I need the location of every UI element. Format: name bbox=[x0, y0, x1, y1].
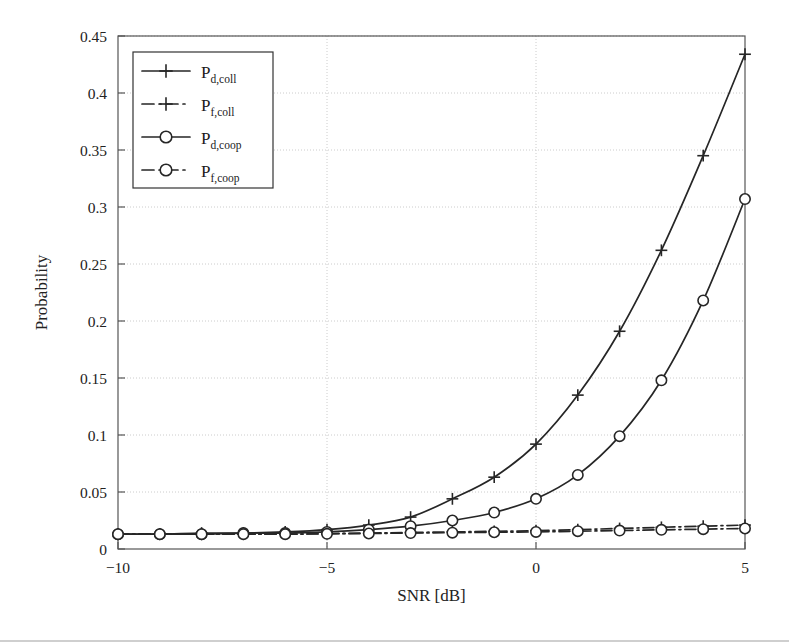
x-tick-label-3: 5 bbox=[741, 559, 749, 576]
x-axis-label: SNR [dB] bbox=[397, 586, 465, 605]
y-axis-label: Probability bbox=[32, 254, 51, 330]
series-p-f-coll bbox=[112, 519, 751, 540]
y-tick-label-5: 0.25 bbox=[80, 256, 107, 273]
y-tick-label-7: 0.35 bbox=[80, 142, 107, 159]
y-tick-label-9: 0.45 bbox=[80, 28, 107, 45]
x-tick-label-0: −10 bbox=[106, 559, 130, 576]
y-tick-label-3: 0.15 bbox=[80, 370, 107, 387]
figure-container: 00.050.10.150.20.250.30.350.40.45−10−505… bbox=[0, 0, 789, 642]
y-tick-label-2: 0.1 bbox=[88, 427, 107, 444]
probability-vs-snr-chart: 00.050.10.150.20.250.30.350.40.45−10−505… bbox=[0, 0, 789, 642]
y-tick-label-6: 0.3 bbox=[88, 199, 108, 216]
y-tick-label-0: 0 bbox=[99, 541, 107, 558]
y-tick-label-8: 0.4 bbox=[88, 85, 108, 102]
x-tick-label-2: 0 bbox=[532, 559, 540, 576]
y-tick-label-1: 0.05 bbox=[80, 484, 107, 501]
series-p-f-coop bbox=[113, 523, 750, 539]
x-tick-label-1: −5 bbox=[319, 559, 336, 576]
chart-legend: Pd,collPf,collPd,coopPf,coop bbox=[133, 52, 273, 188]
series-p-d-coop bbox=[113, 194, 750, 540]
y-tick-label-4: 0.2 bbox=[88, 313, 107, 330]
